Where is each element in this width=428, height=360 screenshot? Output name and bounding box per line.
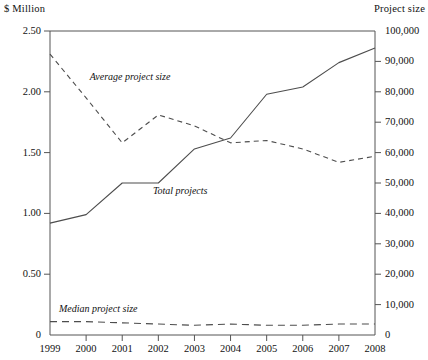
series-label-total-projects: Total projects	[153, 185, 208, 196]
left-tick-label: 2.00	[23, 87, 41, 98]
bottom-tick-label: 2002	[138, 344, 178, 355]
series-label-average-project-size: Average project size	[90, 71, 171, 82]
series-line-median-project-size	[50, 322, 375, 326]
left-tick-label: 0	[36, 330, 41, 341]
right-tick-label: 10,000	[385, 300, 414, 311]
right-tick-label: 70,000	[385, 117, 414, 128]
bottom-tick-label: 2001	[102, 344, 142, 355]
right-tick-label: 50,000	[385, 178, 414, 189]
right-tick-label: 90,000	[385, 56, 414, 67]
bottom-tick-label: 2008	[355, 344, 395, 355]
right-tick-label: 80,000	[385, 87, 414, 98]
bottom-tick-label: 2003	[174, 344, 214, 355]
right-tick-label: 20,000	[385, 269, 414, 280]
right-tick-label: 0	[385, 330, 390, 341]
left-tick-label: 1.50	[23, 148, 41, 159]
bottom-tick-label: 2004	[211, 344, 251, 355]
bottom-tick-label: 2000	[66, 344, 106, 355]
series-line-average-project-size	[50, 54, 375, 162]
right-tick-label: 60,000	[385, 148, 414, 159]
left-tick-label: 0.50	[23, 269, 41, 280]
right-tick-label: 100,000	[385, 26, 419, 37]
series-label-median-project-size: Median project size	[59, 303, 138, 314]
left-tick-label: 1.00	[23, 208, 41, 219]
left-tick-label: 2.50	[23, 26, 41, 37]
right-tick-label: 40,000	[385, 208, 414, 219]
bottom-tick-label: 2007	[319, 344, 359, 355]
chart-figure: $ Million Project size 2.502.001.501.000…	[0, 0, 428, 360]
right-tick-label: 30,000	[385, 239, 414, 250]
bottom-tick-label: 2006	[283, 344, 323, 355]
bottom-tick-label: 2005	[247, 344, 287, 355]
bottom-tick-label: 1999	[30, 344, 70, 355]
